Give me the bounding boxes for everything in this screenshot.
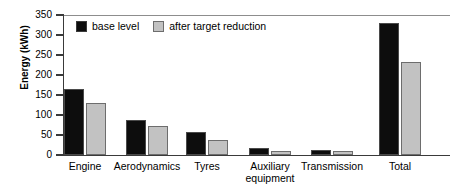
legend-item-base-level: base level — [76, 20, 139, 32]
bar-after-target-reduction — [148, 126, 168, 155]
y-axis-tick-label: 250 — [10, 50, 52, 60]
y-axis-tick — [56, 94, 63, 95]
bar-base-level — [311, 150, 331, 155]
gray-square-swatch — [153, 21, 164, 32]
y-axis-tick — [56, 54, 63, 55]
y-axis-tick — [56, 14, 63, 15]
legend-item-after-target-reduction: after target reduction — [153, 20, 266, 32]
y-axis-tick — [56, 114, 63, 115]
x-axis-label: Total — [350, 160, 450, 172]
bar-chart: Energy (kWh) 050100150200250300350 Engin… — [0, 0, 453, 196]
y-axis-tick-label: 150 — [10, 90, 52, 100]
legend-label: after target reduction — [169, 20, 266, 32]
legend-label: base level — [92, 20, 139, 32]
y-axis-tick — [56, 154, 63, 155]
chart-legend: base level after target reduction — [76, 20, 266, 32]
bar-group — [311, 15, 353, 155]
y-axis-tick-label: 50 — [10, 130, 52, 140]
bar-base-level — [379, 23, 399, 155]
bar-after-target-reduction — [86, 103, 106, 155]
plot-area — [63, 15, 450, 155]
bar-base-level — [249, 148, 269, 155]
bar-after-target-reduction — [208, 140, 228, 155]
bar-after-target-reduction — [401, 62, 421, 155]
y-axis-tick-label: 200 — [10, 70, 52, 80]
bar-group — [126, 15, 168, 155]
y-axis-tick — [56, 134, 63, 135]
bar-group — [64, 15, 106, 155]
bar-group — [379, 15, 421, 155]
bar-base-level — [64, 89, 84, 155]
bar-base-level — [126, 120, 146, 155]
bar-base-level — [186, 132, 206, 155]
black-square-swatch — [76, 21, 87, 32]
bar-group — [249, 15, 291, 155]
y-axis-tick-label: 350 — [10, 10, 52, 20]
bar-after-target-reduction — [271, 151, 291, 155]
bar-group — [186, 15, 228, 155]
y-axis-tick — [56, 74, 63, 75]
y-axis-tick-label: 0 — [10, 150, 52, 160]
bar-after-target-reduction — [333, 151, 353, 155]
y-axis-tick-label: 100 — [10, 110, 52, 120]
y-axis-tick — [56, 34, 63, 35]
y-axis-tick-label: 300 — [10, 30, 52, 40]
